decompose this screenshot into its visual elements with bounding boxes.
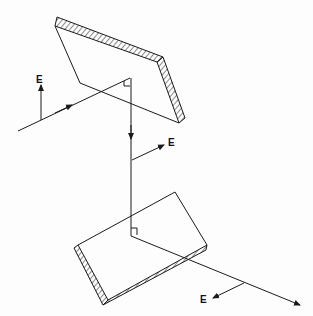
incident-ray [18,78,130,131]
outgoing-ray [131,236,300,305]
e-vector-outgoing [213,283,244,298]
right-angle-marker-lower [131,228,137,235]
upper-mirror [55,17,185,123]
right-angle-marker-upper [124,81,130,86]
e-label-incident: E [36,75,43,85]
lower-mirror [74,192,207,305]
optics-diagram [0,0,313,316]
e-vector-vertical [132,145,164,160]
e-label-vertical: E [168,138,175,148]
diagram-canvas: E E E [0,0,313,316]
e-label-outgoing: E [200,295,207,305]
